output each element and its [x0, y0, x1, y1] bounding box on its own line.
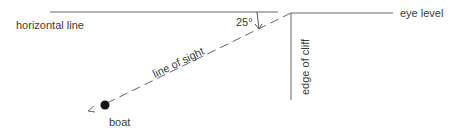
angle-of-depression-diagram: horizontal line eye level 25° line of si…	[0, 0, 455, 132]
edge-of-cliff-label: edge of cliff	[299, 38, 311, 95]
angle-label: 25°	[236, 16, 253, 28]
boat-dot	[101, 101, 110, 110]
eye-level-label: eye level	[400, 7, 443, 19]
line-of-sight-label: line of sight	[151, 45, 206, 80]
boat-label: boat	[109, 116, 130, 128]
horizontal-line-label: horizontal line	[16, 19, 84, 31]
line-of-sight-arrowhead	[88, 106, 95, 112]
